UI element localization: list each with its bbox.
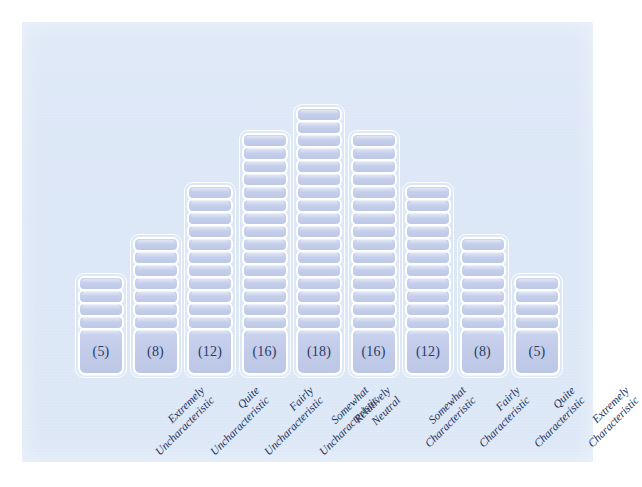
stack-cell[interactable] [133,237,179,252]
stack-cell[interactable] [78,276,124,291]
stack-cell[interactable] [133,276,179,291]
stack-column[interactable]: (18) [296,107,342,375]
stack-cell[interactable] [351,198,397,213]
stack-cell[interactable] [242,237,288,252]
stack-cell[interactable] [405,276,451,291]
stack-cell[interactable] [296,276,342,291]
stack-cell[interactable] [242,315,288,330]
stack-cell[interactable] [351,289,397,304]
stack-cell[interactable] [296,263,342,278]
stack-cell[interactable] [351,185,397,200]
stack-cell[interactable] [351,315,397,330]
stack-cell[interactable] [405,224,451,239]
stack-cell[interactable] [351,211,397,226]
stack-cell[interactable] [296,224,342,239]
stack-cell[interactable] [242,146,288,161]
stack-cell[interactable] [78,289,124,304]
stack-cell[interactable] [351,146,397,161]
stack-cell[interactable] [242,172,288,187]
stack-cell[interactable] [242,276,288,291]
stack-cell[interactable] [133,263,179,278]
stack-cell[interactable] [133,302,179,317]
stack-cell[interactable] [187,250,233,265]
stack-cell[interactable] [187,263,233,278]
stack-cell[interactable] [405,289,451,304]
stack-cell[interactable] [242,133,288,148]
stack-cell[interactable] [187,289,233,304]
stack-cell[interactable] [296,146,342,161]
count-cell[interactable]: (18) [296,328,342,375]
stack-cell[interactable] [78,315,124,330]
stack-cell[interactable] [187,302,233,317]
stack-cell[interactable] [460,289,506,304]
stack-cell[interactable] [242,211,288,226]
stack-cell[interactable] [296,250,342,265]
count-cell[interactable]: (8) [460,328,506,375]
stack-cell[interactable] [405,250,451,265]
stack-cell[interactable] [296,133,342,148]
stack-cell[interactable] [405,198,451,213]
count-cell[interactable]: (8) [133,328,179,375]
count-cell[interactable]: (16) [242,328,288,375]
stack-cell[interactable] [242,185,288,200]
stack-cell[interactable] [351,276,397,291]
stack-cell[interactable] [460,315,506,330]
stack-column[interactable]: (16) [242,133,288,375]
stack-column[interactable]: (16) [351,133,397,375]
stack-cell[interactable] [405,263,451,278]
stack-cell[interactable] [351,133,397,148]
stack-cell[interactable] [405,211,451,226]
stack-cell[interactable] [460,237,506,252]
stack-cell[interactable] [405,237,451,252]
stack-cell[interactable] [296,315,342,330]
stack-cell[interactable] [351,172,397,187]
stack-cell[interactable] [405,185,451,200]
stack-cell[interactable] [460,250,506,265]
stack-cell[interactable] [187,224,233,239]
stack-cell[interactable] [296,237,342,252]
stack-column[interactable]: (5) [514,276,560,375]
stack-cell[interactable] [351,250,397,265]
stack-cell[interactable] [242,263,288,278]
stack-cell[interactable] [133,289,179,304]
stack-cell[interactable] [242,289,288,304]
stack-cell[interactable] [133,315,179,330]
stack-cell[interactable] [405,315,451,330]
stack-cell[interactable] [405,302,451,317]
stack-cell[interactable] [242,302,288,317]
stack-cell[interactable] [351,159,397,174]
stack-cell[interactable] [296,211,342,226]
stack-cell[interactable] [78,302,124,317]
count-cell[interactable]: (12) [405,328,451,375]
stack-cell[interactable] [351,237,397,252]
stack-cell[interactable] [351,302,397,317]
stack-cell[interactable] [296,185,342,200]
stack-cell[interactable] [296,120,342,135]
stack-column[interactable]: (12) [187,185,233,375]
stack-cell[interactable] [460,263,506,278]
stack-column[interactable]: (8) [460,237,506,375]
stack-cell[interactable] [187,315,233,330]
stack-cell[interactable] [460,302,506,317]
stack-cell[interactable] [296,159,342,174]
stack-cell[interactable] [242,250,288,265]
stack-cell[interactable] [351,224,397,239]
stack-cell[interactable] [187,211,233,226]
stack-cell[interactable] [514,289,560,304]
stack-cell[interactable] [514,302,560,317]
stack-cell[interactable] [187,237,233,252]
count-cell[interactable]: (5) [78,328,124,375]
stack-cell[interactable] [187,185,233,200]
stack-cell[interactable] [296,172,342,187]
stack-cell[interactable] [514,276,560,291]
stack-cell[interactable] [351,263,397,278]
stack-column[interactable]: (5) [78,276,124,375]
stack-cell[interactable] [296,302,342,317]
stack-cell[interactable] [296,198,342,213]
stack-cell[interactable] [296,107,342,122]
stack-cell[interactable] [187,276,233,291]
stack-column[interactable]: (12) [405,185,451,375]
count-cell[interactable]: (12) [187,328,233,375]
count-cell[interactable]: (16) [351,328,397,375]
stack-cell[interactable] [242,198,288,213]
